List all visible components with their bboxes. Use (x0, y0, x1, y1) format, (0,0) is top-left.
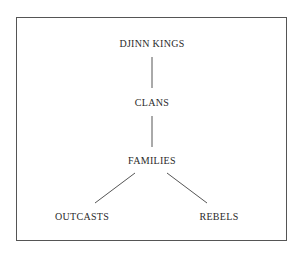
node-djinn-kings: DJINN KINGS (119, 38, 184, 50)
edge-families-to-rebels (167, 173, 207, 203)
node-outcasts: OUTCASTS (55, 211, 109, 223)
node-clans: CLANS (135, 97, 169, 109)
edge-families-to-outcasts (95, 173, 135, 203)
node-families: FAMILIES (128, 155, 176, 167)
node-rebels: REBELS (199, 211, 238, 223)
